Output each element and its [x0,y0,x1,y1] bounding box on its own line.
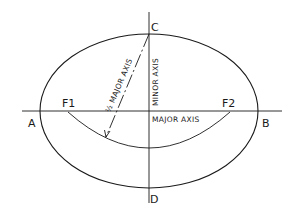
half-major-axis-line [106,34,149,137]
focus-f2-label: F2 [222,97,235,110]
point-c-label: C [151,21,159,34]
focus-f1-label: F1 [62,97,75,110]
point-b-label: B [262,117,270,130]
arrowhead-icon [105,130,111,137]
ellipse-diagram: A B C D F1 F2 MAJOR AXIS MINOR AXIS ½ MA… [0,0,292,218]
major-axis-label: MAJOR AXIS [152,115,200,124]
point-d-label: D [150,193,158,206]
minor-axis-label: MINOR AXIS [151,58,160,106]
point-a-label: A [28,117,36,130]
